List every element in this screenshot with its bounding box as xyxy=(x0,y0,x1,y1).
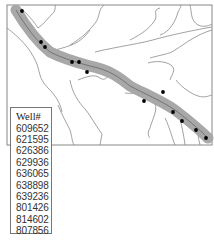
legend-well-id: 638898 xyxy=(16,180,51,191)
legend-well-id: 626386 xyxy=(16,145,51,156)
well-legend: Well# 609652 621595 626386 629936 636065… xyxy=(10,107,52,234)
legend-well-id: 609652 xyxy=(16,123,51,134)
legend-well-id: 807856 xyxy=(16,225,51,236)
legend-well-id: 636065 xyxy=(16,168,51,179)
legend-well-id: 801426 xyxy=(16,202,51,213)
legend-well-id: 814602 xyxy=(16,214,51,225)
legend-well-id: 639236 xyxy=(16,191,51,202)
legend-well-id: 621595 xyxy=(16,134,51,145)
legend-title: Well# xyxy=(16,111,51,123)
legend-well-id: 629936 xyxy=(16,157,51,168)
